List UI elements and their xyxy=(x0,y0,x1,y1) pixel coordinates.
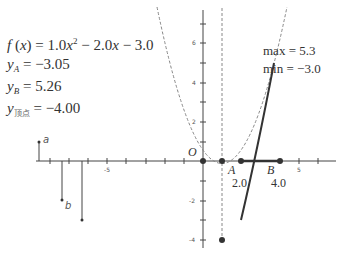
vertex-point[interactable] xyxy=(219,237,225,243)
min-readout: min = −3.0 xyxy=(263,61,321,77)
parabola-solid-segment xyxy=(241,63,274,220)
stem-b-label: b xyxy=(65,200,71,211)
fx-open: ( xyxy=(11,37,20,53)
tick-x-neg5: -5 xyxy=(104,166,110,173)
yA-value: = −3.05 xyxy=(19,56,70,72)
yV-value: = −4.00 xyxy=(30,100,81,116)
tick-y-neg4: -4 xyxy=(189,236,195,243)
point-B[interactable] xyxy=(277,158,283,164)
tick-x-5: 5 xyxy=(297,166,301,173)
graph-canvas: f (x) = 1.0x2 − 2.0x − 3.0 yA = −3.05 yB… xyxy=(0,0,342,253)
yB-symbol: y xyxy=(7,78,14,94)
stem-a-label: a xyxy=(43,134,49,145)
coef-a: 1.0 xyxy=(48,37,67,53)
yB-readout: yB = 5.26 xyxy=(7,78,61,100)
yV-symbol: y xyxy=(7,100,14,116)
function-formula: f (x) = 1.0x2 − 2.0x − 3.0 xyxy=(7,33,154,54)
term-c: − 3.0 xyxy=(119,37,154,53)
tick-y-neg2: -2 xyxy=(189,197,195,204)
tick-y-2: 2 xyxy=(192,118,196,125)
tick-y-4: 4 xyxy=(192,79,196,86)
stem-a-handle[interactable] xyxy=(38,141,41,144)
origin-label: O xyxy=(188,145,197,160)
yV-subscript: 顶点 xyxy=(14,109,30,118)
fx-close: ) = xyxy=(27,37,48,53)
yA-symbol: y xyxy=(7,56,14,72)
yA-readout: yA = −3.05 xyxy=(7,56,70,78)
point-A[interactable] xyxy=(219,158,225,164)
point-interval-start[interactable] xyxy=(238,158,244,164)
yB-value: = 5.26 xyxy=(19,78,61,94)
interval-start-value: 2.0 xyxy=(232,176,247,191)
vertex-readout: y顶点 = −4.00 xyxy=(7,100,80,122)
max-readout: max = 5.3 xyxy=(263,43,315,59)
interval-end-value: 4.0 xyxy=(271,176,286,191)
tick-y-6: 6 xyxy=(192,39,196,46)
stem-b-handle[interactable] xyxy=(61,199,64,202)
term-b: − 2.0 xyxy=(77,37,112,53)
stem-c-handle[interactable] xyxy=(81,219,84,222)
origin-point[interactable] xyxy=(200,158,206,164)
